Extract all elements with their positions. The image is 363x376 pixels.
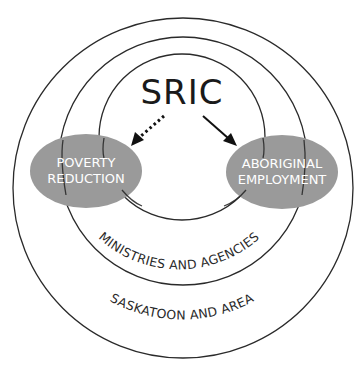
node-poverty-reduction: POVERTY REDUCTION: [30, 134, 142, 208]
aboriginal-label-line1: ABORIGINAL: [242, 156, 323, 171]
poverty-label-line1: POVERTY: [57, 155, 116, 170]
arrow-sric-to-aboriginal: [203, 116, 237, 146]
ministries-agencies-label: MINISTRIES AND AGENCIES: [96, 229, 262, 273]
dotted-arrow-shaft: [141, 116, 164, 136]
sric-diagram: POVERTY REDUCTION ABORIGINAL EMPLOYMENT …: [0, 0, 363, 376]
node-aboriginal-employment: ABORIGINAL EMPLOYMENT: [224, 135, 338, 209]
saskatoon-area-label: SASKATOON AND AREA: [108, 290, 256, 322]
arrow-sric-to-poverty: [131, 116, 164, 146]
diagram-canvas: POVERTY REDUCTION ABORIGINAL EMPLOYMENT …: [0, 0, 363, 376]
aboriginal-label-line2: EMPLOYMENT: [238, 172, 327, 187]
sric-title: SRIC: [141, 72, 224, 112]
poverty-label-line2: REDUCTION: [47, 171, 125, 186]
solid-arrow-shaft: [203, 116, 228, 138]
